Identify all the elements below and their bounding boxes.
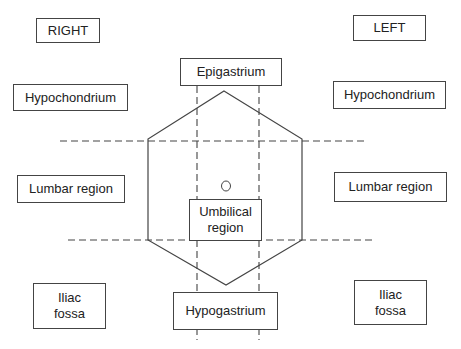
right-lumbar-label: Lumbar region <box>17 175 125 203</box>
left-lumbar-label: Lumbar region <box>334 172 447 202</box>
right-side-label-text: RIGHT <box>48 23 88 39</box>
left-side-label: LEFT <box>353 15 426 41</box>
left-iliac-text-line1: Iliac <box>379 287 402 303</box>
umbilical-region-label: Umbilical region <box>189 199 262 241</box>
left-hypochondrium-label: Hypochondrium <box>333 81 446 109</box>
right-side-label: RIGHT <box>36 18 100 43</box>
left-side-label-text: LEFT <box>374 20 406 36</box>
epigastrium-label: Epigastrium <box>180 58 282 86</box>
right-hypochondrium-text: Hypochondrium <box>25 90 116 106</box>
umbilical-text-line2: region <box>207 220 243 236</box>
left-hypochondrium-text: Hypochondrium <box>344 87 435 103</box>
right-lumbar-text: Lumbar region <box>29 181 113 197</box>
hypogastrium-text: Hypogastrium <box>185 303 265 319</box>
hypogastrium-label: Hypogastrium <box>173 292 278 330</box>
left-iliac-text-line2: fossa <box>375 303 406 319</box>
epigastrium-text: Epigastrium <box>197 64 266 80</box>
umbilical-text-line1: Umbilical <box>199 204 252 220</box>
right-iliac-text-line2: fossa <box>54 306 85 322</box>
right-hypochondrium-label: Hypochondrium <box>13 84 128 111</box>
umbilicus-marker-icon <box>222 181 231 191</box>
left-iliac-fossa-label: Iliac fossa <box>354 280 427 325</box>
abdomen-hexagon-outline <box>148 91 302 285</box>
right-iliac-text-line1: Iliac <box>58 290 81 306</box>
right-iliac-fossa-label: Iliac fossa <box>33 283 106 329</box>
left-lumbar-text: Lumbar region <box>349 179 433 195</box>
